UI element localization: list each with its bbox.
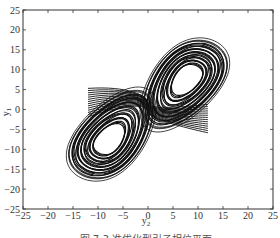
y-tick-label: 20 [10, 24, 20, 35]
y-tick-label: 15 [10, 44, 20, 55]
x-tick-label: 25 [268, 210, 278, 221]
attractor-phase-plot: −25−20−15−10−50510152025 2520151050−5−10… [0, 0, 280, 238]
x-tick-label: −5 [118, 210, 129, 221]
figure-caption: 图 7-3 准优化型引子相位平面 [80, 233, 213, 238]
y-tick-label: −15 [4, 164, 20, 175]
y-tick-label: −5 [9, 124, 20, 135]
y-tick-label: −25 [4, 204, 20, 215]
x-tick-label: −10 [90, 210, 106, 221]
x-tick-label: −20 [40, 210, 56, 221]
y-tick-label: 25 [10, 5, 20, 16]
y-axis-label: y1 [0, 107, 13, 116]
y-tick-label: −10 [4, 144, 20, 155]
y-tick-label: −20 [4, 184, 20, 195]
y-tick-label: 0 [15, 104, 20, 115]
x-tick-label: 5 [171, 210, 176, 221]
y-tick-label: 5 [15, 84, 20, 95]
x-tick-label: 20 [243, 210, 253, 221]
x-tick-label: 10 [193, 210, 203, 221]
y-tick-label: 10 [10, 64, 20, 75]
x-tick-label: −15 [65, 210, 81, 221]
x-tick-label: 15 [218, 210, 228, 221]
